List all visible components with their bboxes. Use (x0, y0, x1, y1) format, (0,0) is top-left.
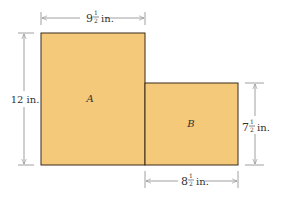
svg-text:8: 8 (181, 175, 188, 188)
label-b: B (186, 118, 194, 129)
svg-text:7: 7 (242, 121, 249, 134)
right-height-dimension: 7 1 2 in. (242, 83, 270, 165)
svg-text:in.: in. (101, 13, 114, 24)
svg-text:in.: in. (196, 176, 209, 187)
composite-rectangle-figure: A B 9 1 2 in. 12 in. 7 1 2 in. (0, 0, 282, 200)
svg-text:2: 2 (189, 180, 193, 187)
svg-text:1: 1 (94, 9, 98, 16)
svg-text:2: 2 (94, 17, 98, 24)
left-height-dimension: 12 in. (11, 33, 40, 165)
svg-text:1: 1 (250, 118, 254, 125)
svg-text:1: 1 (189, 172, 193, 179)
svg-text:12 in.: 12 in. (11, 94, 40, 105)
label-a: A (85, 93, 93, 104)
figure-canvas: A B 9 1 2 in. 12 in. 7 1 2 in. (0, 0, 282, 200)
svg-text:2: 2 (250, 126, 254, 133)
svg-text:9: 9 (86, 12, 93, 25)
top-width-dimension: 9 1 2 in. (41, 9, 145, 25)
svg-text:in.: in. (257, 122, 270, 133)
bottom-width-dimension: 8 1 2 in. (145, 171, 238, 188)
